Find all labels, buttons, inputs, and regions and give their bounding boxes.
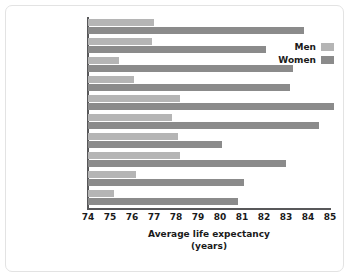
chart-row: Japan xyxy=(88,94,330,113)
x-tick-label: 80 xyxy=(208,212,232,222)
chart-row: Italy xyxy=(88,75,330,94)
chart-figure: CanadaGreeceIsraelItalyJapanNew ZealandS… xyxy=(0,0,349,277)
x-tick-label: 79 xyxy=(186,212,210,222)
x-tick-label: 75 xyxy=(98,212,122,222)
x-tick-label: 84 xyxy=(296,212,320,222)
legend-label-men: Men xyxy=(295,42,316,52)
legend-item-women: Women xyxy=(258,53,334,66)
bar-men xyxy=(88,114,172,121)
chart-legend: Men Women xyxy=(258,40,334,66)
bar-women xyxy=(88,141,222,148)
bar-men xyxy=(88,190,114,197)
x-tick-label: 76 xyxy=(120,212,144,222)
bar-men xyxy=(88,133,178,140)
bar-men xyxy=(88,76,134,83)
bar-women xyxy=(88,198,238,205)
chart-row: South Korea xyxy=(88,132,330,151)
bar-women xyxy=(88,65,293,72)
chart-row: United Kingdom xyxy=(88,170,330,189)
bar-men xyxy=(88,38,152,45)
bar-women xyxy=(88,103,334,110)
bar-women xyxy=(88,27,304,34)
x-tick-label: 74 xyxy=(76,212,100,222)
bar-women xyxy=(88,122,319,129)
x-tick-label: 78 xyxy=(164,212,188,222)
x-tick-label: 82 xyxy=(252,212,276,222)
legend-swatch-women xyxy=(321,56,334,64)
chart-row: United States xyxy=(88,189,330,208)
legend-swatch-men xyxy=(321,43,334,51)
bar-men xyxy=(88,57,119,64)
bar-women xyxy=(88,179,244,186)
chart-row: Canada xyxy=(88,18,330,37)
bar-women xyxy=(88,160,286,167)
bar-men xyxy=(88,171,136,178)
x-axis-line xyxy=(87,208,331,210)
x-tick-label: 83 xyxy=(274,212,298,222)
chart-row: Sweden xyxy=(88,151,330,170)
x-tick-label: 77 xyxy=(142,212,166,222)
x-axis-title-line1: Average life expectancy xyxy=(148,229,270,239)
legend-item-men: Men xyxy=(258,40,334,53)
x-tick-label: 81 xyxy=(230,212,254,222)
chart-row: New Zealand xyxy=(88,113,330,132)
x-tick-label: 85 xyxy=(318,212,342,222)
legend-label-women: Women xyxy=(278,55,316,65)
bar-women xyxy=(88,84,290,91)
bar-men xyxy=(88,19,154,26)
x-axis-title: Average life expectancy (years) xyxy=(88,228,330,252)
bar-women xyxy=(88,46,266,53)
x-axis-title-line2: (years) xyxy=(88,240,330,252)
bar-men xyxy=(88,95,180,102)
bar-men xyxy=(88,152,180,159)
